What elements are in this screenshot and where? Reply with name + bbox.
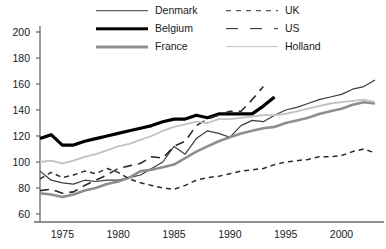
x-tick-1975: 1975 [42, 228, 82, 240]
y-tick-160: 160 [4, 78, 30, 90]
y-tick-80: 80 [4, 182, 30, 194]
axis-lines [34, 26, 384, 222]
x-tick-1985: 1985 [154, 228, 194, 240]
x-tick-1995: 1995 [266, 228, 306, 240]
series-line-denmark [40, 80, 375, 184]
y-tick-100: 100 [4, 156, 30, 168]
y-tick-180: 180 [4, 52, 30, 64]
series-line-us [40, 87, 263, 194]
series-line-belgium [40, 97, 275, 145]
plot-area: 2001801601401201008060 19751980198519901… [0, 0, 386, 249]
x-tick-1990: 1990 [210, 228, 250, 240]
y-tick-60: 60 [4, 208, 30, 220]
chart-canvas [0, 0, 386, 249]
y-tick-120: 120 [4, 130, 30, 142]
chart-figure: Denmark Belgium France UK US Holland 200… [0, 0, 386, 249]
y-tick-140: 140 [4, 104, 30, 116]
x-tick-2000: 2000 [322, 228, 362, 240]
y-tick-200: 200 [4, 26, 30, 38]
x-tick-1980: 1980 [98, 228, 138, 240]
